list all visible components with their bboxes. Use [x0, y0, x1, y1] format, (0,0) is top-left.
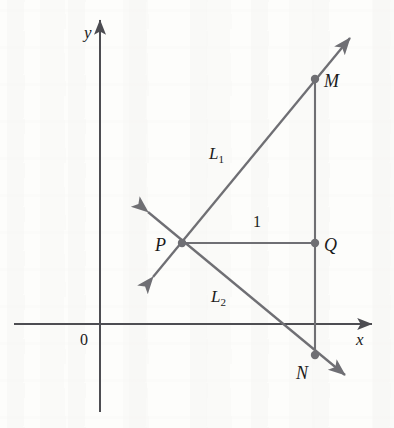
point-n-dot	[311, 351, 319, 359]
geometry-figure: y x 0 P M Q N L1 L2 1	[0, 0, 394, 428]
point-m-dot	[311, 75, 319, 83]
figure-canvas	[0, 0, 394, 428]
x-axis-label: x	[356, 331, 364, 348]
point-label-n: N	[296, 364, 308, 382]
points-group	[178, 75, 319, 359]
point-label-p: P	[155, 236, 166, 254]
point-q-dot	[311, 239, 319, 247]
segment-length-label-pq: 1	[253, 214, 261, 230]
point-label-q: Q	[324, 236, 337, 254]
origin-label: 0	[80, 332, 88, 348]
point-p-dot	[178, 239, 186, 247]
y-axis-label: y	[84, 24, 92, 41]
line-label-l2-subscript: 2	[220, 296, 226, 308]
line-label-l1-subscript: 1	[218, 153, 224, 165]
line-label-l2: L2	[211, 288, 226, 305]
point-label-m: M	[324, 72, 339, 90]
line-label-l1: L1	[209, 145, 224, 162]
